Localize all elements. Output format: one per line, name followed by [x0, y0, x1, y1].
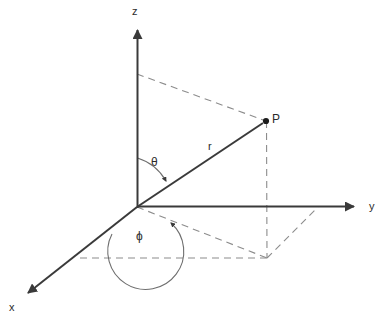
dashed-xy-projection-to-y-axis — [267, 207, 318, 258]
theta-angle-label: θ — [151, 156, 158, 168]
axes-group — [28, 30, 354, 293]
dashed-z-level-to-point — [137, 74, 266, 121]
spherical-coordinates-svg — [0, 0, 386, 320]
point-p-marker — [263, 118, 269, 124]
phi-angle-label: ϕ — [136, 230, 143, 242]
phi-arc — [108, 223, 184, 289]
dashed-origin-to-xy-projection — [137, 207, 267, 258]
dashed-point-to-xy-plane — [267, 121, 268, 258]
angle-arcs-group — [108, 158, 184, 289]
diagram-canvas: z y x P r θ ϕ — [0, 0, 386, 320]
y-axis-label: y — [369, 201, 375, 212]
x-axis-label: x — [9, 302, 15, 313]
z-axis-label: z — [132, 6, 138, 17]
radius-label: r — [208, 141, 212, 152]
point-p-label: P — [272, 113, 280, 125]
